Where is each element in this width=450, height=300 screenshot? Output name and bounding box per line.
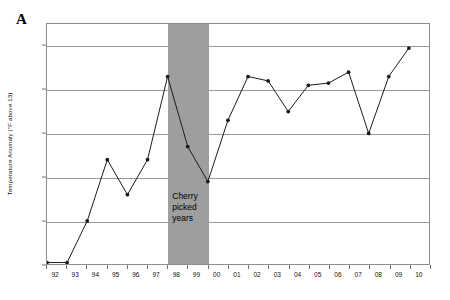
x-tick-label: 99 [193, 271, 200, 278]
data-point [65, 261, 69, 264]
series-line [47, 48, 409, 262]
x-tick-mark [167, 265, 168, 269]
x-tick-label: 92 [51, 271, 58, 278]
x-tick-mark [248, 265, 249, 269]
plot-area: Cherry picked years [46, 23, 430, 265]
data-point [266, 79, 270, 83]
data-series [47, 24, 429, 264]
x-tick-label: 96 [132, 271, 139, 278]
x-tick-label: 04 [294, 271, 301, 278]
x-tick-mark [66, 265, 67, 269]
data-point [306, 83, 310, 87]
x-tick-label: 08 [375, 271, 382, 278]
x-tick-label: 95 [112, 271, 119, 278]
data-point [367, 132, 371, 136]
x-tick-mark [147, 265, 148, 269]
x-tick-label: 09 [395, 271, 402, 278]
data-point [347, 70, 351, 74]
x-tick-mark [208, 265, 209, 269]
x-tick-mark [410, 265, 411, 269]
x-tick-mark [390, 265, 391, 269]
x-tick-mark [107, 265, 108, 269]
x-tick-mark [289, 265, 290, 269]
x-tick-label: 03 [274, 271, 281, 278]
x-tick-mark [46, 265, 47, 269]
y-axis-title: Temperature Anomaly (°F above 13) [6, 93, 13, 196]
x-tick-label: 94 [92, 271, 99, 278]
x-tick-label: 06 [334, 271, 341, 278]
chart-figure: A Temperature Anomaly (°F above 13) 0102… [0, 0, 450, 300]
x-tick-label: 00 [213, 271, 220, 278]
x-tick-label: 07 [355, 271, 362, 278]
x-tick-mark [369, 265, 370, 269]
x-tick-label: 02 [253, 271, 260, 278]
x-tick-mark [268, 265, 269, 269]
data-point [85, 219, 89, 223]
x-tick-label: 01 [233, 271, 240, 278]
data-point [246, 75, 250, 79]
data-point [226, 118, 230, 122]
x-tick-mark [86, 265, 87, 269]
data-point [407, 46, 411, 50]
cherry-picked-years-label: Cherry picked years [172, 191, 198, 224]
x-tick-label: 98 [173, 271, 180, 278]
data-point [105, 158, 109, 162]
x-tick-label: 05 [314, 271, 321, 278]
data-point [126, 193, 130, 197]
data-point [146, 158, 150, 162]
x-tick-label: 10 [415, 271, 422, 278]
data-point [327, 81, 331, 85]
x-tick-mark [430, 265, 431, 269]
data-point [387, 75, 391, 79]
data-point [206, 180, 210, 184]
x-tick-mark [187, 265, 188, 269]
x-tick-mark [228, 265, 229, 269]
x-tick-label: 93 [72, 271, 79, 278]
x-tick-mark [127, 265, 128, 269]
y-axis-title-container: Temperature Anomaly (°F above 13) [0, 23, 18, 265]
x-tick-mark [349, 265, 350, 269]
x-tick-mark [329, 265, 330, 269]
data-point [286, 110, 290, 114]
data-point [166, 75, 170, 79]
x-tick-label: 97 [152, 271, 159, 278]
plot-inner: Cherry picked years [47, 24, 429, 264]
data-point [47, 261, 49, 264]
x-tick-mark [309, 265, 310, 269]
data-point [186, 145, 190, 149]
